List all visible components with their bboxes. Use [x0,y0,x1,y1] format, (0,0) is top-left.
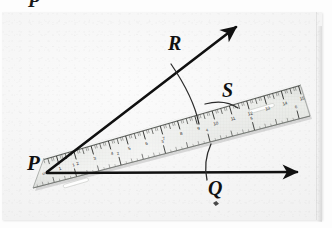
ruler: 1 2 3 4 5 6 7 8 9 10 11 12 13 14 [20,75,320,200]
arc-Q [206,144,211,180]
label-Q: Q [208,178,222,198]
label-P: P [27,153,40,174]
diagram-drawing: 1 2 3 4 5 6 7 8 9 10 11 12 13 14 [0,0,332,228]
ray-PQ [47,172,297,173]
figure-screenshot: P [0,0,332,228]
label-S: S [222,80,233,100]
label-R: R [168,33,181,53]
